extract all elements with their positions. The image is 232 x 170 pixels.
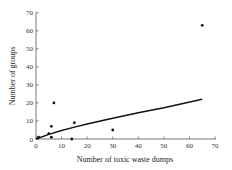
x-tick-label: 10 xyxy=(58,142,66,150)
data-point xyxy=(37,136,40,139)
data-point xyxy=(70,138,73,141)
y-tick-label: 60 xyxy=(26,27,34,35)
x-tick-label: 70 xyxy=(212,142,220,150)
y-tick-label: 70 xyxy=(26,9,34,17)
x-tick-label: 60 xyxy=(186,142,194,150)
y-tick-label: 50 xyxy=(26,45,34,53)
y-tick-label: 40 xyxy=(26,63,34,71)
data-point xyxy=(50,136,53,139)
data-point xyxy=(201,24,204,27)
x-axis-label: Number of toxic waste dumps xyxy=(77,155,173,164)
data-point xyxy=(111,129,114,132)
data-point xyxy=(50,125,53,128)
y-tick-label: 20 xyxy=(26,99,34,107)
x-tick-label: 50 xyxy=(160,142,168,150)
y-tick-label: 30 xyxy=(26,81,34,89)
y-tick-label: 0 xyxy=(30,136,34,144)
y-tick-label: 10 xyxy=(26,117,34,125)
y-axis-label: Number of groups xyxy=(8,47,17,106)
data-point xyxy=(53,102,56,105)
fit-curve xyxy=(36,99,202,139)
x-tick-label: 0 xyxy=(34,142,38,150)
x-tick-label: 40 xyxy=(135,142,143,150)
data-point xyxy=(47,132,50,135)
data-point xyxy=(73,121,76,124)
x-tick-label: 30 xyxy=(109,142,117,150)
data-points xyxy=(37,24,203,140)
x-tick-label: 20 xyxy=(84,142,92,150)
axes: 010203040506070010203040506070 xyxy=(26,9,219,150)
scatter-chart: 010203040506070010203040506070 Number of… xyxy=(0,0,232,170)
